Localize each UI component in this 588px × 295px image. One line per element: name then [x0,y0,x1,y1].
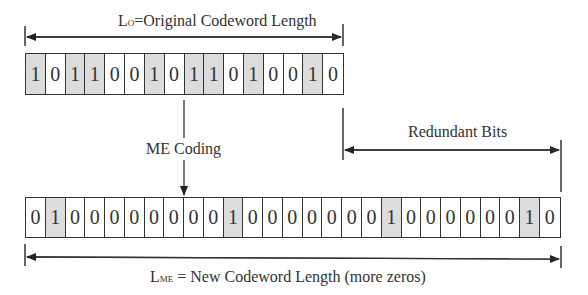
original-length-text: =Original Codeword Length [134,12,316,29]
bit-cell: 0 [243,198,263,237]
bit-cell: 0 [402,198,422,237]
bit-cell: 0 [421,198,441,237]
bit-cell: 0 [461,198,481,237]
bit-cell: 1 [520,198,540,237]
bit-cell: 1 [85,54,105,94]
bit-cell: 0 [46,54,66,94]
bit-cell: 0 [105,54,125,94]
bit-cell: 1 [185,54,205,94]
bit-cell: 0 [284,54,304,94]
bit-cell: 1 [382,198,402,237]
bit-cell: 0 [125,54,145,94]
bit-cell: 1 [26,54,46,94]
original-length-symbol: L [118,12,128,29]
bit-cell: 0 [481,198,501,237]
me-coding-label: ME Coding [146,140,221,158]
bit-cell: 1 [66,54,86,94]
bit-cell: 1 [244,54,264,94]
bit-cell: 0 [540,198,560,237]
bit-cell: 0 [283,198,303,237]
bit-cell: 0 [500,198,520,237]
bit-cell: 0 [184,198,204,237]
arrows-layer [0,0,588,295]
bit-cell: 0 [263,198,283,237]
bit-cell: 1 [204,54,224,94]
bit-cell: 0 [264,54,284,94]
original-codeword: 1011001011010010 [25,53,344,95]
bit-cell: 0 [342,198,362,237]
bit-cell: 1 [46,198,66,237]
original-length-label: LO=Original Codeword Length [118,12,317,30]
bit-cell: 0 [303,198,323,237]
bit-cell: 1 [224,198,244,237]
bit-cell: 0 [105,198,125,237]
bit-cell: 1 [145,54,165,94]
redundant-bits-dimension [343,108,561,192]
bit-cell: 1 [303,54,323,94]
bit-cell: 0 [125,198,145,237]
bit-cell: 0 [164,198,184,237]
bit-cell: 0 [26,198,46,237]
bit-cell: 0 [322,198,342,237]
new-length-label: LME = New Codeword Length (more zeros) [150,268,426,286]
new-codeword: 010000000010000000100000010 [25,197,561,238]
new-length-dimension [25,244,561,268]
new-length-subscript: ME [160,274,174,284]
redundant-bits-label: Redundant Bits [408,123,507,141]
new-length-symbol: L [150,268,160,285]
bit-cell: 0 [441,198,461,237]
bit-cell: 0 [145,198,165,237]
bit-cell: 0 [85,198,105,237]
bit-cell: 0 [66,198,86,237]
bit-cell: 0 [224,54,244,94]
new-length-text: = New Codeword Length (more zeros) [173,268,426,285]
bit-cell: 0 [165,54,185,94]
bit-cell: 0 [204,198,224,237]
bit-cell: 0 [362,198,382,237]
bit-cell: 0 [323,54,343,94]
